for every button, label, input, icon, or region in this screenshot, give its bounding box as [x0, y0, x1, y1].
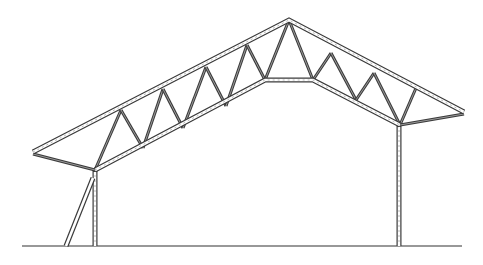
- web-member: [313, 53, 331, 80]
- web-member: [121, 110, 143, 148]
- web-member: [163, 89, 183, 128]
- web-member: [400, 88, 416, 125]
- web-member: [356, 73, 374, 100]
- truss-diagram: [0, 0, 483, 265]
- truss-svg: [0, 0, 483, 265]
- web-member: [247, 45, 265, 80]
- diagonal-brace: [66, 178, 93, 246]
- right-eave-return: [400, 114, 464, 125]
- bottom-chord: [95, 80, 400, 170]
- left-eave-return: [33, 154, 95, 170]
